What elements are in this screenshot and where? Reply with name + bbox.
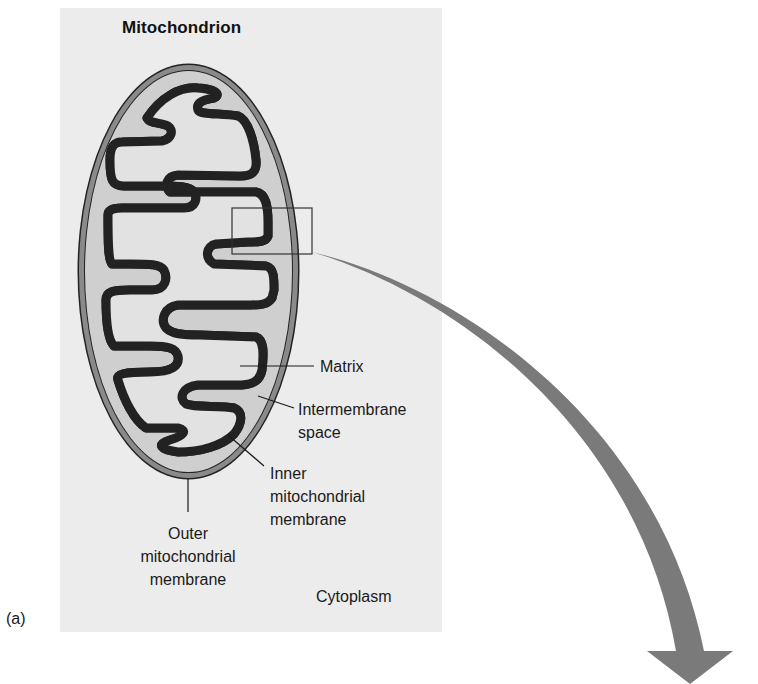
- diagram-title: Mitochondrion: [122, 18, 241, 38]
- label-cytoplasm: Cytoplasm: [316, 585, 392, 608]
- mitochondrion-illustration: [0, 0, 758, 684]
- label-matrix: Matrix: [320, 355, 364, 378]
- magnify-arrow: [312, 252, 733, 684]
- label-inner-membrane: Inner mitochondrial membrane: [270, 462, 365, 531]
- label-intermembrane-space: Intermembrane space: [298, 398, 407, 444]
- panel-label: (a): [6, 610, 26, 628]
- label-outer-membrane: Outer mitochondrial membrane: [128, 522, 248, 591]
